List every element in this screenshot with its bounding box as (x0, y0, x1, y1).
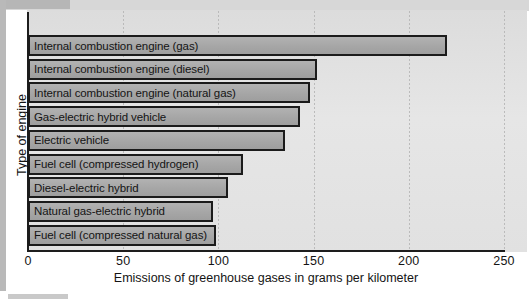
bar[interactable]: Fuel cell (compressed hydrogen) (28, 154, 243, 175)
bar-category-label: Internal combustion engine (gas) (34, 40, 198, 52)
bar-category-label: Diesel-electric hybrid (34, 182, 139, 194)
bar-row[interactable]: Internal combustion engine (natural gas) (28, 82, 506, 103)
bar-category-label: Natural gas-electric hybrid (34, 205, 165, 217)
bar-category-label: Gas-electric hybrid vehicle (34, 111, 166, 123)
x-tick-label-250: 250 (493, 254, 514, 268)
x-axis-label: Emissions of greenhouse gases in grams p… (27, 271, 505, 285)
bar-row[interactable]: Fuel cell (compressed natural gas) (28, 225, 506, 246)
bar[interactable]: Natural gas-electric hybrid (28, 201, 213, 222)
bar-category-label: Fuel cell (compressed natural gas) (34, 229, 207, 241)
bar-row[interactable]: Internal combustion engine (gas) (28, 35, 506, 56)
bar-row[interactable]: Natural gas-electric hybrid (28, 201, 506, 222)
bar-row[interactable]: Diesel-electric hybrid (28, 177, 506, 198)
bar-row[interactable]: Internal combustion engine (diesel) (28, 59, 506, 80)
x-tick-label-0: 0 (24, 254, 31, 268)
x-tick-label-200: 200 (398, 254, 419, 268)
bar-row[interactable]: Electric vehicle (28, 130, 506, 151)
x-tick-label-150: 150 (303, 254, 324, 268)
bar-chart: Internal combustion engine (gas)Internal… (0, 0, 529, 301)
bar-category-label: Internal combustion engine (natural gas) (34, 87, 236, 99)
figure-container: Internal combustion engine (gas)Internal… (0, 0, 529, 301)
bar[interactable]: Internal combustion engine (gas) (28, 35, 447, 56)
bar-category-label: Internal combustion engine (diesel) (34, 63, 210, 75)
x-axis-line (27, 250, 505, 252)
x-tick-label-50: 50 (116, 254, 130, 268)
bar[interactable]: Internal combustion engine (diesel) (28, 59, 317, 80)
bar-row[interactable]: Gas-electric hybrid vehicle (28, 106, 506, 127)
bar-category-label: Electric vehicle (34, 134, 109, 146)
bar[interactable]: Fuel cell (compressed natural gas) (28, 225, 216, 246)
bar-row[interactable]: Fuel cell (compressed hydrogen) (28, 154, 506, 175)
bar[interactable]: Electric vehicle (28, 130, 285, 151)
y-axis-label: Type of engine (15, 75, 29, 195)
x-tick-label-100: 100 (208, 254, 229, 268)
bar-category-label: Fuel cell (compressed hydrogen) (34, 158, 198, 170)
bars-layer: Internal combustion engine (gas)Internal… (28, 35, 506, 249)
bar[interactable]: Diesel-electric hybrid (28, 177, 228, 198)
bar[interactable]: Gas-electric hybrid vehicle (28, 106, 300, 127)
bar[interactable]: Internal combustion engine (natural gas) (28, 82, 310, 103)
